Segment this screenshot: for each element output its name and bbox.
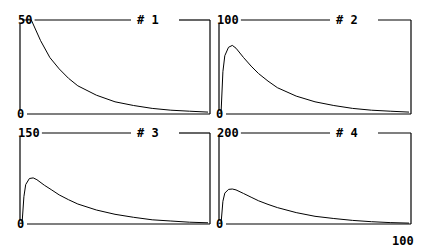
y-min-label: 0 [216, 217, 223, 231]
y-min-label: 0 [17, 217, 24, 231]
data-curve [221, 45, 409, 114]
chart-panel-3: 1500# 3 [17, 126, 210, 231]
chart-panel-1: 500# 1 [17, 13, 210, 121]
y-max-label: 150 [18, 126, 40, 140]
y-max-label: 200 [217, 126, 239, 140]
chart-grid: 500# 11000# 21500# 32000# 4 100 [0, 0, 429, 252]
panel-title: # 3 [137, 126, 159, 140]
chart-panel-2: 1000# 2 [216, 13, 411, 121]
y-min-label: 0 [216, 107, 223, 121]
y-max-label: 100 [217, 13, 239, 27]
panel-title: # 1 [137, 13, 159, 27]
chart-panel-4: 2000# 4 [216, 126, 411, 231]
y-min-label: 0 [17, 107, 24, 121]
x-axis-max-label: 100 [392, 234, 414, 248]
panel-title: # 2 [336, 13, 358, 27]
data-curve [22, 20, 208, 112]
data-curve [22, 178, 208, 224]
panel-title: # 4 [336, 126, 358, 140]
data-curve [221, 189, 409, 224]
